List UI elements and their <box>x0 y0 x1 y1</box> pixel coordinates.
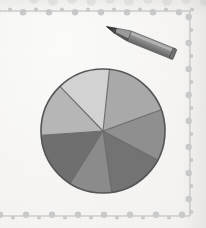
worksheet-page <box>0 0 206 228</box>
pie-chart <box>36 64 170 198</box>
pencil <box>110 26 180 60</box>
